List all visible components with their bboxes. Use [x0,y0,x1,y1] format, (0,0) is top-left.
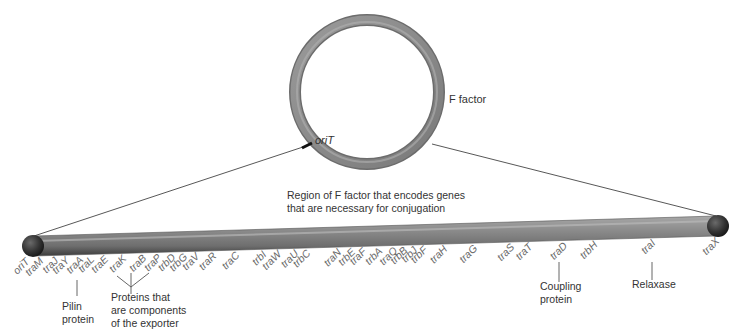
f-factor-diagram: oriT F factor Region of F factor that en… [0,0,748,332]
expansion-line-right [432,144,716,216]
expansion-line-left [34,146,306,236]
region-caption-line2: that are necessary for conjugation [287,202,445,214]
svg-text:Pilin: Pilin [62,300,82,312]
gene-label-traK: traK [106,252,129,275]
gene-label-traI: traI [638,237,657,256]
gene-label-traR: traR [196,249,219,272]
gene-label-traC: traC [219,249,242,272]
svg-text:Proteins that: Proteins that [111,291,170,303]
gene-label-trbH: trbH [577,238,600,261]
gene-label-traT: traT [513,239,536,262]
pilin-annotation: Pilin protein [62,280,94,325]
gene-label-traD: traD [547,239,570,262]
gene-label-traX: traX [699,234,722,257]
f-factor-label: F factor [449,93,487,105]
svg-text:are components: are components [111,304,186,316]
coupling-annotation: Coupling protein [540,262,582,305]
bar-end-right [707,215,729,237]
exporter-annotation: Proteins that are components of the expo… [111,273,186,329]
region-caption-line1: Region of F factor that encodes genes [287,189,465,201]
svg-text:of the exporter: of the exporter [111,317,179,329]
oriT-ring-label: oriT [315,134,335,146]
bar-end-left [22,235,44,257]
gene-label-traH: traH [427,242,450,265]
svg-text:Coupling: Coupling [540,280,582,292]
svg-text:protein: protein [540,293,572,305]
svg-text:protein: protein [62,313,94,325]
gene-label-traG: traG [456,242,479,265]
svg-text:Relaxase: Relaxase [632,278,676,290]
relaxase-annotation: Relaxase [632,262,676,290]
